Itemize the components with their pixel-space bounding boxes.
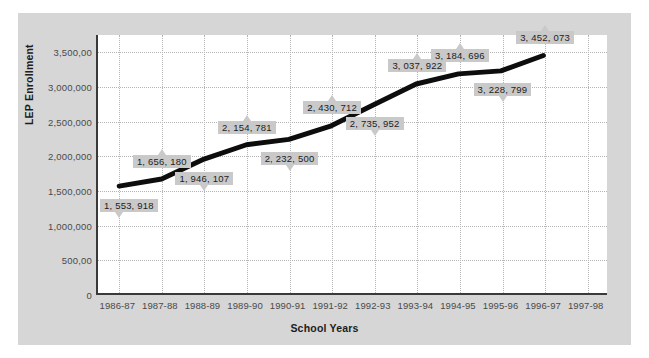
callout-pointer-icon: [243, 115, 251, 121]
x-axis-tick-labels: 1986-871987-881988-891989-901990-911991-…: [96, 300, 607, 318]
plot-area: 1, 553, 9181, 656, 1801, 946, 1072, 154,…: [96, 35, 607, 295]
chart-figure: LEP Enrollment School Years 0500,001,000…: [0, 0, 649, 358]
x-axis-tick-label: 1994-95: [440, 300, 476, 311]
x-axis-tick-label: 1990-91: [270, 300, 306, 311]
x-axis-tick-label: 1997-98: [568, 300, 604, 311]
y-axis-tick-label: 2,000,000: [18, 151, 92, 162]
data-point-label: 3, 184, 696: [431, 49, 489, 62]
data-point-label: 3, 228, 799: [474, 83, 532, 96]
data-point-label: 2, 735, 952: [346, 117, 404, 130]
callout-pointer-icon: [115, 212, 123, 218]
callout-pointer-icon: [541, 25, 549, 31]
data-point-label: 1, 656, 180: [133, 155, 191, 168]
y-axis-tick-label: 2,500,000: [18, 116, 92, 127]
callout-pointer-icon: [200, 185, 208, 191]
x-axis-tick-label: 1995-96: [483, 300, 519, 311]
y-axis-tick-label: 3,000,000: [18, 82, 92, 93]
y-axis-tick-label: 500,00: [18, 255, 92, 266]
data-point-label: 1, 553, 918: [100, 199, 158, 212]
x-axis-tick-label: 1993-94: [398, 300, 434, 311]
callout-pointer-icon: [328, 95, 336, 101]
x-axis-tick-label: 1989-90: [227, 300, 263, 311]
x-axis-tick-label: 1987-88: [142, 300, 178, 311]
y-axis-tick-label: 3,500,00: [18, 47, 92, 58]
callout-pointer-icon: [413, 53, 421, 59]
data-point-label: 2, 232, 500: [261, 152, 319, 165]
callout-pointer-icon: [371, 130, 379, 136]
x-axis-tick-label: 1986-87: [99, 300, 135, 311]
y-axis-tick-label: 0: [18, 290, 92, 301]
callout-pointer-icon: [499, 96, 507, 102]
y-axis-tick-labels: 0500,001,000,0001,500,0002,000,0002,500,…: [14, 35, 92, 295]
data-point-label: 3, 452, 073: [516, 31, 574, 44]
x-axis-title: School Years: [0, 322, 649, 334]
x-axis-tick-label: 1996-97: [525, 300, 561, 311]
x-axis-tick-label: 1991-92: [312, 300, 348, 311]
callout-pointer-icon: [456, 43, 464, 49]
callout-pointer-icon: [158, 149, 166, 155]
x-axis-tick-label: 1992-93: [355, 300, 391, 311]
data-point-label: 2, 154, 781: [218, 121, 276, 134]
data-point-label: 1, 946, 107: [175, 172, 233, 185]
y-axis-tick-label: 1,000,000: [18, 220, 92, 231]
callout-pointer-icon: [286, 165, 294, 171]
x-axis-tick-label: 1988-89: [185, 300, 221, 311]
data-point-label: 2, 430, 712: [303, 101, 361, 114]
y-axis-tick-label: 1,500,000: [18, 186, 92, 197]
